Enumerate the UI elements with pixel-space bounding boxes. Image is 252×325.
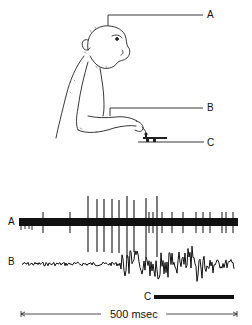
label-c-bar: C — [144, 292, 151, 302]
callout-lines — [108, 15, 203, 116]
trace-c-bar — [154, 295, 234, 299]
monkey-task-figure — [0, 0, 252, 325]
response-key — [138, 132, 204, 142]
trace-a — [19, 196, 238, 258]
label-b-top: B — [207, 103, 214, 113]
label-c-top: C — [207, 138, 214, 148]
label-a-top: A — [207, 10, 214, 20]
monkey-illustration — [56, 26, 146, 138]
scale-label: 500 msec — [110, 309, 158, 320]
label-b-trace: B — [8, 257, 15, 267]
trace-b — [22, 246, 234, 281]
label-a-trace: A — [8, 217, 15, 227]
